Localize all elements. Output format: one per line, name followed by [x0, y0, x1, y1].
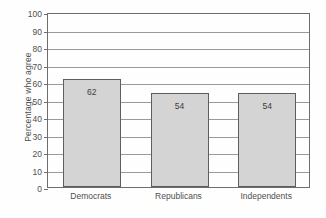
- gridline: [48, 67, 309, 68]
- tick-mark: [44, 102, 48, 103]
- y-axis-tick-label: 60: [33, 80, 42, 89]
- tick-mark: [44, 32, 48, 33]
- tick-mark: [44, 67, 48, 68]
- tick-mark: [44, 119, 48, 120]
- tick-mark: [44, 14, 48, 15]
- tick-mark: [44, 189, 48, 190]
- y-axis-title: Percentage who agree: [23, 17, 33, 177]
- tick-mark: [44, 49, 48, 50]
- bar: 54: [151, 93, 209, 188]
- y-axis-tick-label: 0: [37, 185, 42, 194]
- bar-value-label: 54: [239, 101, 295, 111]
- x-axis-label: Republicans: [135, 191, 223, 201]
- plot-area: 0102030405060708090100 625454: [47, 13, 310, 188]
- x-axis-label: Democrats: [47, 191, 135, 201]
- y-axis-tick-label: 80: [33, 45, 42, 54]
- y-axis-tick-label: 90: [33, 27, 42, 36]
- tick-mark: [44, 154, 48, 155]
- y-axis-tick-label: 10: [33, 167, 42, 176]
- tick-mark: [44, 172, 48, 173]
- tick-mark: [44, 137, 48, 138]
- x-axis-label: Independents: [222, 191, 310, 201]
- y-axis-tick-label: 50: [33, 97, 42, 106]
- tick-mark: [44, 84, 48, 85]
- y-axis-tick-label: 30: [33, 132, 42, 141]
- y-axis-tick-label: 70: [33, 62, 42, 71]
- bar-chart: Percentage who agree 0102030405060708090…: [0, 0, 326, 218]
- gridline: [48, 32, 309, 33]
- bar-value-label: 62: [64, 87, 120, 97]
- bar-value-label: 54: [152, 101, 208, 111]
- gridline: [48, 49, 309, 50]
- bar: 54: [238, 93, 296, 188]
- bar: 62: [63, 79, 121, 188]
- y-axis-tick-label: 40: [33, 115, 42, 124]
- y-axis-tick-label: 20: [33, 150, 42, 159]
- y-axis-tick-label: 100: [28, 10, 42, 19]
